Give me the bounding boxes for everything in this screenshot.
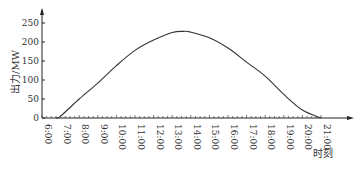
power-curve <box>56 31 321 118</box>
y-tick-label: 200 <box>22 37 39 47</box>
x-tick-label: 8:00 <box>80 124 90 144</box>
axes <box>40 8 354 120</box>
y-tick-label: 0 <box>33 113 39 123</box>
y-axis-label: 出力/MW <box>9 49 21 94</box>
x-minor-ticks <box>42 115 321 118</box>
x-ticks: 6:007:008:009:0010:0011:0012:0013:0014:0… <box>43 124 332 150</box>
x-tick-label: 19:00 <box>285 124 295 150</box>
x-tick-label: 12:00 <box>155 124 165 150</box>
power-output-chart: 050100150200250 6:007:008:009:0010:0011:… <box>0 0 362 170</box>
y-tick-label: 50 <box>28 94 40 104</box>
x-tick-label: 15:00 <box>210 124 220 150</box>
x-tick-label: 9:00 <box>99 124 109 144</box>
x-tick-label: 11:00 <box>136 124 146 150</box>
x-tick-label: 14:00 <box>192 124 202 150</box>
y-axis-arrow-icon <box>40 8 44 15</box>
x-tick-label: 7:00 <box>62 124 72 144</box>
y-tick-label: 150 <box>22 56 39 66</box>
x-tick-label: 10:00 <box>117 124 127 150</box>
x-tick-label: 16:00 <box>229 124 239 150</box>
x-tick-label: 13:00 <box>173 124 183 150</box>
y-tick-label: 250 <box>22 18 39 28</box>
x-tick-label: 20:00 <box>303 124 313 150</box>
x-tick-label: 6:00 <box>43 124 53 144</box>
x-axis-label: 时刻 <box>313 147 333 159</box>
y-tick-label: 100 <box>22 75 39 85</box>
x-tick-label: 17:00 <box>248 124 258 150</box>
x-axis-arrow-icon <box>347 116 354 120</box>
x-tick-label: 18:00 <box>266 124 276 150</box>
x-tick-label: 21:00 <box>322 124 332 150</box>
